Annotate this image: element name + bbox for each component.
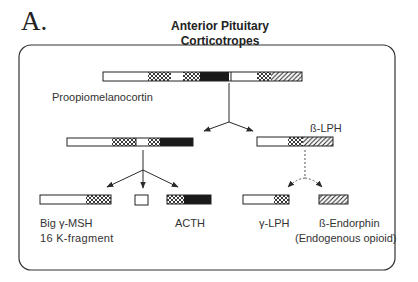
pomc-processing-diagram: A. Anterior Pituitary Corticotropes Proo… [0,0,418,282]
beta-endorphin-label: ß-Endorphin [319,218,380,229]
acth-bar [167,195,211,204]
beta-lph-bar [257,137,333,146]
beta-endorphin-sublabel: (Endogenous opioid) [295,233,397,244]
gamma-lph-bar [243,195,289,204]
beta-lph-label: ß-LPH [310,123,342,134]
pomc-bar [103,72,302,81]
pomc-cleavage-arrows [204,83,253,131]
big-gamma-msh-label: Big γ-MSH [40,218,93,229]
big-gamma-msh-sublabel: 16 K-fragment [40,233,114,244]
beta-endorphin-bar [319,195,348,204]
gamma-lph-label: γ-LPH [259,218,290,229]
figure-title-line1: Anterior Pituitary [120,20,320,32]
intermediate-cleavage-arrows [107,150,178,188]
beta-lph-cleavage-arrows [288,150,322,187]
big-gamma-msh-bar [40,195,111,204]
pomc-label: Proopiomelanocortin [52,92,153,103]
panel-letter: A. [21,8,47,35]
intermediate-bar [67,138,193,146]
acth-label: ACTH [175,218,205,229]
figure-title-line2: Corticotropes [120,35,320,47]
small-fragment-box [135,195,148,205]
